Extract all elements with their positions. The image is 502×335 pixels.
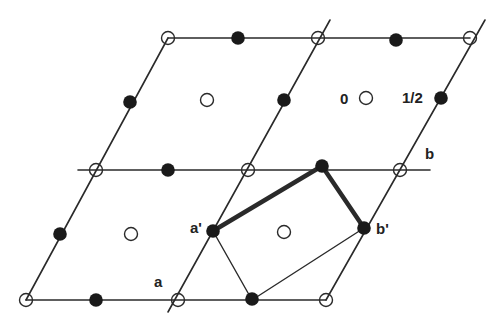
label-a-prime: a' [190,219,202,236]
lattice-diagram: 0 1/2 a b a' b' [0,0,502,335]
filled-site-icon [89,293,103,307]
primed-cell-edge [322,166,364,228]
label-a-axis: a [154,273,163,290]
filled-site-icon [434,91,448,105]
open-site-icon [125,228,138,241]
filled-site-icon [357,221,371,235]
filled-site-icon [315,159,329,173]
lattice-line [326,20,485,300]
open-site-icon [278,226,291,239]
lattice-canvas: 0 1/2 a b a' b' [0,0,502,335]
open-site-icon [90,164,103,177]
open-site-icon [201,94,214,107]
label-zero: 0 [340,90,348,107]
open-site-icon [320,294,333,307]
open-site-icon [172,294,185,307]
filled-site-icon [123,95,137,109]
filled-site-icon [206,224,220,238]
open-site-icon [162,32,175,45]
open-site-icon [20,294,33,307]
open-site-icon [464,32,477,45]
open-site-icon [360,92,373,105]
open-circle-sites [20,32,477,307]
label-one-half: 1/2 [402,89,423,106]
label-b-axis: b [425,145,434,162]
open-site-icon [242,164,255,177]
open-site-icon [312,32,325,45]
primed-cell-edge [213,166,322,231]
label-b-prime: b' [376,220,389,237]
filled-site-icon [161,163,175,177]
filled-site-icon [245,292,259,306]
filled-site-icon [53,227,67,241]
lattice-line [213,231,252,300]
filled-site-icon [389,33,403,47]
filled-site-icon [277,93,291,107]
open-site-icon [394,164,407,177]
filled-site-icon [231,31,245,45]
